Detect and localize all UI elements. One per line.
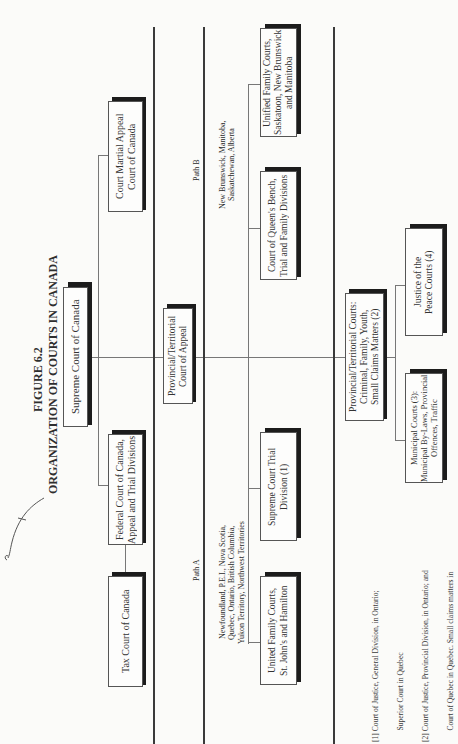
connector-federal [98, 485, 108, 486]
federal-court-label: Federal Court of Canada, Appeal and Tria… [109, 435, 142, 544]
path-b-jurisdictions: New Brunswick, Manitoba, Saskatchewan, A… [212, 90, 242, 240]
box-municipal: Municipal Courts (3): Municipal By-Laws,… [405, 373, 443, 483]
footnotes: [1] Court of Justice, General Division, … [355, 520, 440, 742]
path-a-label: Path A [190, 540, 204, 600]
box-court-martial: Court Martial Appeal Court of Canada [108, 101, 143, 212]
box-queens-bench: Court of Queen's Bench, Trial and Family… [260, 171, 297, 280]
connector-spine [90, 357, 345, 358]
connector-tax [125, 543, 126, 575]
figure-title: ORGANIZATION OF COURTS IN CANADA [45, 210, 61, 540]
connector-queensbench [248, 228, 260, 229]
box-federal-court: Federal Court of Canada, Appeal and Tria… [108, 434, 143, 545]
supreme-court-label: Supreme Court of Canada [64, 288, 87, 426]
box-justice-peace: Justice of the Peace Courts (4) [405, 228, 443, 336]
footnote-line: Superior Court in Quebec [397, 520, 405, 742]
connector-unified-sask [248, 84, 260, 85]
connector-tier4-v [395, 285, 396, 440]
footnote-line: Court of Quebec in Quebec. Small claims … [447, 520, 455, 742]
divider-trial-provincial [333, 27, 335, 744]
box-tax-court: Tax Court of Canada [108, 576, 143, 687]
united-family-label: United Family Courts, St. John's and Ham… [261, 577, 296, 684]
path-b-label: Path B [190, 140, 204, 200]
justice-peace-label: Justice of the Peace Courts (4) [406, 229, 442, 335]
figure-number: FIGURE 6.2 [30, 330, 46, 430]
box-united-family: United Family Courts, St. John's and Ham… [260, 576, 297, 685]
tax-court-label: Tax Court of Canada [109, 577, 142, 686]
connector-supremetrial [248, 488, 260, 489]
connector-municipal [395, 440, 405, 441]
box-unified-family-sask: Unified Family Courts, Saskatoon, New Br… [260, 28, 297, 137]
connector-jp [395, 285, 405, 286]
box-supreme-court: Supreme Court of Canada [63, 287, 88, 427]
box-provincial-courts: Provincial/Territorial Courts: Criminal,… [345, 293, 384, 421]
provincial-appeal-label: Provincial/Territorial Court of Appeal [164, 309, 192, 403]
pen-mark-icon [0, 490, 50, 570]
box-supreme-trial: Supreme Court Trial Division (1) [260, 432, 297, 541]
footnote-line: [1] Court of Justice, General Division, … [372, 520, 380, 742]
unified-family-sask-label: Unified Family Courts, Saskatoon, New Br… [261, 29, 296, 136]
municipal-label: Municipal Courts (3): Municipal By-Laws,… [406, 374, 442, 482]
supreme-trial-label: Supreme Court Trial Division (1) [261, 433, 296, 540]
connector-tier1 [98, 155, 99, 485]
divider-appeal-trial [203, 27, 205, 744]
connector-courtmartial [98, 155, 108, 156]
provincial-courts-label: Provincial/Territorial Courts: Criminal,… [346, 294, 383, 420]
divider-federal-provincial [153, 27, 155, 744]
footnote-line: [2] Court of Justice, Provincial Divisio… [422, 520, 430, 742]
box-provincial-appeal: Provincial/Territorial Court of Appeal [163, 308, 193, 404]
path-a-jurisdictions: Newfoundland, P.E.I., Nova Scotia, Quebe… [212, 490, 252, 675]
queens-bench-label: Court of Queen's Bench, Trial and Family… [261, 172, 296, 279]
court-martial-label: Court Martial Appeal Court of Canada [109, 102, 142, 211]
